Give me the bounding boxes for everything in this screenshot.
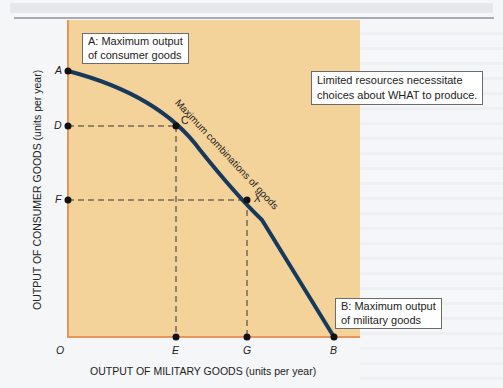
annotation-b: B: Maximum output of military goods	[335, 298, 442, 329]
y-axis-title: OUTPUT OF CONSUMER GOODS (units per year…	[31, 70, 43, 310]
label-o: O	[56, 344, 64, 356]
point-c	[173, 123, 180, 130]
point-e	[173, 334, 180, 341]
point-d	[65, 123, 72, 130]
annotation-note-line1: Limited resources necessitate	[317, 73, 477, 88]
label-g: G	[243, 344, 251, 356]
point-f	[65, 197, 72, 204]
label-a: A	[55, 64, 62, 76]
annotation-a-line2: of consumer goods	[88, 49, 183, 63]
label-e: E	[172, 344, 179, 356]
ppc-diagram	[0, 0, 503, 388]
point-a	[65, 68, 72, 75]
label-d: D	[54, 119, 62, 131]
annotation-b-line2: of military goods	[341, 314, 436, 328]
point-b	[331, 334, 338, 341]
annotation-note-line2: choices about WHAT to produce.	[317, 88, 477, 103]
point-g	[244, 334, 251, 341]
x-axis-title: OUTPUT OF MILITARY GOODS (units per year…	[90, 365, 316, 377]
label-f: F	[55, 193, 61, 205]
annotation-a: A: Maximum output of consumer goods	[82, 33, 189, 64]
annotation-b-line1: B: Maximum output	[341, 300, 436, 314]
annotation-a-line1: A: Maximum output	[88, 35, 183, 49]
label-b: B	[330, 344, 337, 356]
point-x	[244, 197, 251, 204]
annotation-note: Limited resources necessitate choices ab…	[311, 71, 483, 105]
plot-area	[68, 20, 360, 337]
